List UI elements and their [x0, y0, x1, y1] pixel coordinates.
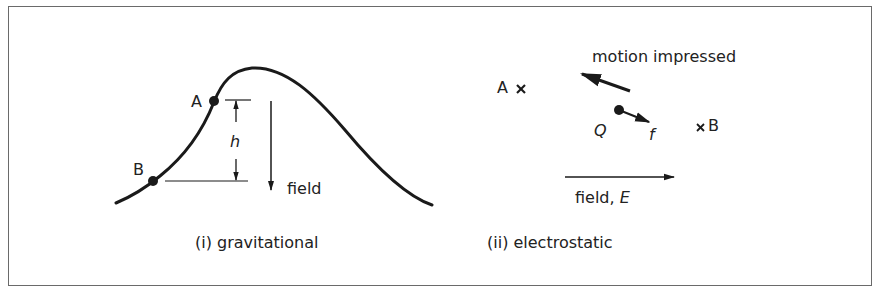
point-b-label: B [133, 160, 144, 179]
motion-label: motion impressed [592, 47, 736, 66]
point-a-label: A [497, 78, 508, 97]
point-a-label: A [191, 92, 202, 111]
force-label: f [649, 125, 657, 144]
field-symbol-e: E [620, 188, 631, 207]
electrostatic-panel: motion impressed A Q f B field, E (ii) e… [487, 47, 736, 252]
gravitational-caption: (i) gravitational [195, 233, 318, 252]
diagram-canvas: A B h field (i) gravitational motion imp… [0, 0, 880, 291]
hill-curve [116, 68, 432, 205]
point-b-cross-icon [697, 124, 704, 131]
gravitational-panel: A B h field (i) gravitational [116, 68, 432, 252]
point-b-label: B [708, 116, 719, 135]
electric-field-label: field, E [575, 188, 631, 207]
height-label: h [230, 132, 240, 151]
charge-q-label: Q [594, 121, 607, 140]
point-b-dot [148, 176, 158, 186]
point-a-cross-icon [517, 85, 525, 93]
motion-arrow [582, 74, 630, 91]
gravity-field-label: field [287, 179, 322, 198]
force-arrow [619, 110, 649, 122]
point-a-dot [209, 96, 219, 106]
electrostatic-caption: (ii) electrostatic [487, 233, 613, 252]
